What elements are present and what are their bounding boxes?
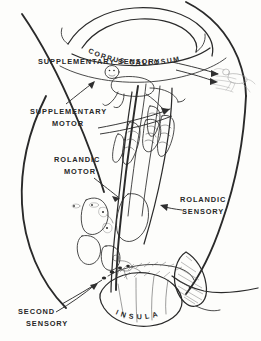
- label-second-sensory-line2: SENSORY: [26, 319, 68, 328]
- figure-labels: CORPUS CALLOSUM SUPPLEMENTARY SENSORY SU…: [18, 47, 226, 328]
- homunculus-mouth: [109, 75, 115, 76]
- homunculus-arm-back: [120, 94, 124, 106]
- homunculus-faint-detail-a: [216, 76, 236, 79]
- arrow-upleft-head-supp-motor: [88, 81, 95, 89]
- homunculus-foot-front: [178, 99, 185, 102]
- homunculus-head: [105, 66, 119, 79]
- corpus-callosum-splenium: [196, 34, 205, 52]
- small-figure-d-dot: [106, 227, 108, 229]
- lower-gyrus-a: [81, 198, 108, 235]
- temporal-operculum-wedge: [174, 252, 206, 306]
- corpus-callosum-genu: [61, 28, 68, 44]
- hand-digits-icon-motor: [113, 119, 161, 164]
- opercular-mark-4: [102, 277, 106, 280]
- arrow-right-head-supp-sensory-2: [210, 78, 218, 85]
- label-rolandic-sensory-line2: SENSORY: [182, 207, 224, 216]
- homunculus-faint-tail: [214, 69, 224, 71]
- label-second-sensory-line1: SECOND: [18, 307, 55, 316]
- insula-sulcus-4: [166, 280, 168, 314]
- homunculus-faint-detail-d: [216, 88, 233, 92]
- operculum-marker-dot: [189, 287, 192, 290]
- arrow-up-right-icon-second-sensory: [56, 284, 96, 312]
- corpus-callosum-structure: [60, 8, 226, 83]
- homunculus-figure-faint-icon-right: [212, 69, 255, 93]
- arrow-second-sensory-group: [56, 280, 102, 312]
- label-supplementary-motor-line1: SUPPLEMENTARY: [30, 107, 107, 116]
- small-figure-a-dot: [73, 205, 75, 207]
- small-figure-b: [90, 203, 99, 207]
- brain-somatotopy-figure: CORPUS CALLOSUM SUPPLEMENTARY SENSORY SU…: [0, 0, 261, 341]
- arrow-left-head-rolandic-sensory: [160, 204, 168, 211]
- label-rolandic-motor-line1: ROLANDIC: [54, 155, 100, 164]
- operculum-tail: [196, 306, 220, 311]
- label-rolandic-sensory-line1: ROLANDIC: [180, 195, 226, 204]
- opercular-mark-3: [126, 265, 130, 268]
- homunculus-faint-detail-c: [212, 84, 230, 88]
- motor-digit-1-crease-a: [147, 126, 157, 130]
- motor-digit-2-crease-a: [128, 131, 138, 134]
- homunculus-faint-arm2: [231, 83, 235, 91]
- label-rolandic-motor-line2: MOTOR: [64, 167, 96, 176]
- small-figure-b-dot: [91, 204, 93, 206]
- homunculus-arm-front: [109, 92, 118, 104]
- homunculus-eye-right: [113, 70, 115, 72]
- lower-gyrus-c: [77, 235, 100, 264]
- arrow-rolandic-sensory-group: [160, 204, 182, 211]
- arrow-up-right-icon-second-sensory-2: [62, 280, 102, 304]
- homunculus-leg-back: [146, 94, 162, 108]
- cortex-outline-upper-left: [22, 14, 104, 192]
- homunculus-faint-arm1: [226, 82, 231, 90]
- label-supplementary-motor-line2: MOTOR: [52, 119, 84, 128]
- label-insula: INSULA: [114, 308, 161, 322]
- brain-diagram-canvas: CORPUS CALLOSUM SUPPLEMENTARY SENSORY SU…: [0, 0, 261, 341]
- homunculus-hand-back: [114, 106, 120, 108]
- label-supplementary-sensory: SUPPLEMENTARY SENSORY: [38, 57, 160, 66]
- motor-digit-2-crease-b: [127, 139, 136, 142]
- homunculus-hand-front: [103, 104, 109, 106]
- homunculus-eye-left: [109, 70, 111, 72]
- arrow-down-right-icon-rolandic-motor: [94, 178, 118, 197]
- opercular-mark-1: [110, 270, 115, 273]
- corpus-callosum-inner: [82, 19, 197, 52]
- small-figure-c-dot: [102, 211, 104, 213]
- label-insula-textpath: INSULA: [114, 308, 161, 322]
